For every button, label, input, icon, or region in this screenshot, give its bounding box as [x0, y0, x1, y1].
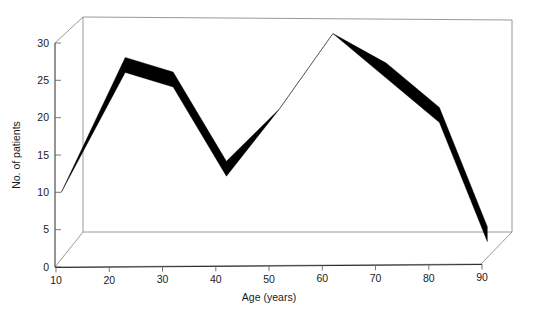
- depth-edge-top-left: [55, 17, 83, 43]
- y-tick-label-5: 5: [43, 223, 49, 235]
- x-axis: 10 20 30 40 50 60 70 80 90 Age (years): [50, 265, 488, 304]
- x-tick-label-10: 10: [50, 274, 62, 286]
- series-ribbon-no-of-patients: [61, 34, 487, 242]
- data-series-group: [61, 34, 487, 242]
- x-tick-label-80: 80: [423, 272, 435, 284]
- y-tick-label-15: 15: [37, 149, 49, 161]
- x-tick-label-90: 90: [476, 271, 488, 283]
- x-tick-label-40: 40: [210, 273, 222, 285]
- x-axis-title: Age (years): [242, 291, 296, 303]
- chart-figure: 0 5 10 15 20 25 30 No. of patients: [0, 0, 536, 309]
- y-tick-label-0: 0: [43, 261, 49, 273]
- y-axis: 0 5 10 15 20 25 30 No. of patients: [10, 37, 61, 273]
- y-tick-marks: [55, 43, 61, 267]
- x-tick-label-30: 30: [157, 273, 169, 285]
- back-wall: [83, 17, 512, 232]
- y-tick-label-25: 25: [37, 74, 49, 86]
- y-tick-label-20: 20: [37, 111, 49, 123]
- y-tick-label-10: 10: [37, 186, 49, 198]
- chart-svg: 0 5 10 15 20 25 30 No. of patients: [0, 0, 536, 309]
- x-tick-label-60: 60: [316, 272, 328, 284]
- y-axis-title: No. of patients: [10, 121, 22, 189]
- floor-front-edge: [55, 264, 481, 267]
- x-tick-label-50: 50: [263, 273, 275, 285]
- x-tick-label-20: 20: [103, 274, 115, 286]
- x-tick-label-70: 70: [370, 272, 382, 284]
- depth-edge-bottom-left: [55, 232, 83, 267]
- y-tick-label-30: 30: [37, 37, 49, 49]
- plot-3d-frame: [55, 17, 512, 267]
- x-axis-line: [55, 265, 482, 268]
